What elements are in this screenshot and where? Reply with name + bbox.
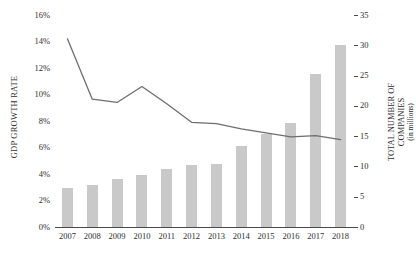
line-series [55,15,353,227]
y-axis-right-tick-mark [354,166,358,167]
y-axis-right-title-unit: (in millions) [406,62,416,182]
y-axis-left-tick-label: 4% [18,169,50,179]
y-axis-right-tick-mark [354,15,358,16]
x-axis-tick-label: 2011 [154,231,179,241]
y-axis-right-tick-label: 15 [360,131,386,141]
x-axis-tick-label: 2017 [303,231,328,241]
y-axis-left-tick-label: 2% [18,195,50,205]
y-axis-right-tick-label: 35 [360,10,386,20]
x-axis-tick-label: 2010 [130,231,155,241]
y-axis-right-title: TOTAL NUMBER OF COMPANIES (in millions) [386,62,410,182]
y-axis-right-tick-mark [354,106,358,107]
y-axis-left-tick-label: 14% [18,36,50,46]
y-axis-right-tick-label: 10 [360,161,386,171]
x-axis-ticks: 2007200820092010201120122013201420152016… [55,231,353,247]
x-axis-tick-label: 2008 [80,231,105,241]
y-axis-right-tick-label: 30 [360,40,386,50]
x-axis-tick-label: 2009 [105,231,130,241]
x-axis-tick-label: 2015 [254,231,279,241]
plot-area [55,15,353,227]
x-axis-tick-label: 2013 [204,231,229,241]
gdp-growth-line [67,39,340,140]
y-axis-right-tick-mark [354,45,358,46]
y-axis-right-tick-mark [354,227,358,228]
y-axis-left-tick-label: 6% [18,142,50,152]
x-axis-tick-label: 2007 [55,231,80,241]
y-axis-right-tick-mark [354,76,358,77]
y-axis-right-tick-label: 0 [360,222,386,232]
y-axis-left-ticks: 0%2%4%6%8%10%12%14%16% [18,0,50,255]
y-axis-left-tick-label: 8% [18,116,50,126]
y-axis-right-tick-mark [354,136,358,137]
x-axis-tick-label: 2018 [328,231,353,241]
y-axis-left-tick-label: 0% [18,222,50,232]
y-axis-left-tick-label: 16% [18,10,50,20]
x-axis-tick-label: 2014 [229,231,254,241]
x-axis-tick-label: 2016 [279,231,304,241]
y-axis-left-tick-label: 12% [18,63,50,73]
y-axis-right-tick-label: 20 [360,100,386,110]
y-axis-right-ticks: 05101520253035 [360,0,386,255]
y-axis-right-tick-mark [354,197,358,198]
x-axis-line [55,227,355,228]
y-axis-right-tick-label: 25 [360,70,386,80]
x-axis-tick-label: 2012 [179,231,204,241]
y-axis-left-tick-label: 10% [18,89,50,99]
y-axis-right-title-line1: TOTAL NUMBER OF COMPANIES [386,62,406,182]
y-axis-right-tick-label: 5 [360,191,386,201]
